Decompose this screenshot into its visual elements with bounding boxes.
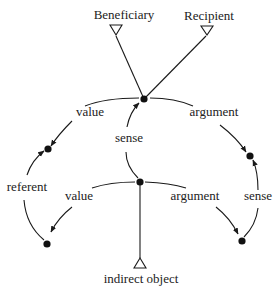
mid-value-arrow bbox=[51, 207, 72, 232]
mid-argument-arrow bbox=[216, 207, 238, 234]
sense-right-edge-lower bbox=[244, 208, 258, 237]
top-value-label: value bbox=[76, 104, 104, 119]
recipient-label: Recipient bbox=[184, 8, 234, 23]
beneficiary-triangle-icon bbox=[110, 25, 122, 35]
semantic-network-diagram: Beneficiary Recipient value argument sen… bbox=[0, 0, 277, 289]
beneficiary-link bbox=[116, 36, 144, 99]
referent-edge-lower bbox=[24, 200, 44, 240]
mid-value-label: value bbox=[65, 188, 93, 203]
mid-argument-label: argument bbox=[171, 188, 220, 203]
top-value-arrow bbox=[51, 121, 72, 146]
recipient-link bbox=[144, 36, 206, 99]
indirect-object-triangle-icon bbox=[134, 258, 146, 268]
node-left-upper bbox=[44, 145, 51, 152]
node-right-upper bbox=[246, 152, 253, 159]
beneficiary-label: Beneficiary bbox=[94, 7, 155, 22]
node-top bbox=[140, 95, 147, 102]
sense-center-label: sense bbox=[115, 130, 143, 145]
referent-label: referent bbox=[7, 179, 48, 194]
sense-center-edge-lower bbox=[126, 152, 138, 178]
referent-arrow bbox=[27, 151, 44, 175]
top-argument-label: argument bbox=[190, 104, 239, 119]
sense-right-label: sense bbox=[244, 188, 272, 203]
top-argument-arrow bbox=[220, 125, 246, 152]
mid-value-edge bbox=[92, 182, 135, 188]
sense-center-arrow bbox=[127, 103, 139, 127]
sense-right-arrow bbox=[253, 160, 258, 190]
indirect-object-label: indirect object bbox=[104, 271, 179, 286]
top-argument-edge bbox=[150, 98, 193, 106]
recipient-triangle-icon bbox=[201, 26, 213, 35]
node-left-lower bbox=[43, 240, 50, 247]
node-right-lower bbox=[238, 237, 245, 244]
node-middle bbox=[136, 178, 143, 185]
